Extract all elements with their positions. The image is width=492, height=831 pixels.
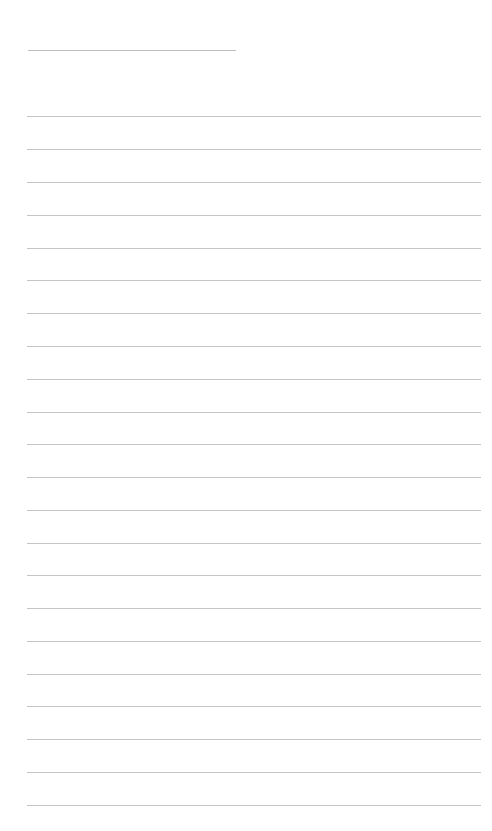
ruled-line (27, 412, 481, 413)
ruled-line (27, 510, 481, 511)
ruled-line (27, 772, 481, 773)
title-underline (28, 50, 236, 51)
ruled-line (27, 641, 481, 642)
ruled-line (27, 248, 481, 249)
ruled-line (27, 182, 481, 183)
ruled-line (27, 706, 481, 707)
lined-paper-page (0, 0, 492, 831)
ruled-line (27, 313, 481, 314)
ruled-line (27, 805, 481, 806)
ruled-line (27, 116, 481, 117)
ruled-line (27, 346, 481, 347)
ruled-line (27, 608, 481, 609)
ruled-line (27, 575, 481, 576)
ruled-line (27, 280, 481, 281)
ruled-line (27, 149, 481, 150)
ruled-line (27, 379, 481, 380)
ruled-line (27, 739, 481, 740)
ruled-line (27, 444, 481, 445)
ruled-line (27, 215, 481, 216)
ruled-line (27, 543, 481, 544)
ruled-line (27, 674, 481, 675)
ruled-line (27, 477, 481, 478)
